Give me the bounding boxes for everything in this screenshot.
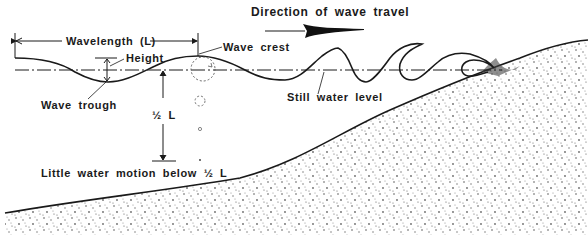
orbital-motion-circles [191, 57, 215, 161]
wave-trough-label: Wave trough [41, 100, 117, 111]
wave-trough-leader [88, 82, 106, 99]
wave-crest-label: Wave crest [223, 42, 290, 53]
half-l-label: ½ L [152, 110, 176, 121]
still-water-level-label: Still water level [287, 92, 383, 103]
wave-crest-leader [199, 47, 222, 54]
direction-label: Direction of wave travel [251, 6, 409, 18]
wave-diagram: Direction of wave travel Wavelength (L) … [0, 0, 588, 235]
direction-arrow [265, 24, 364, 38]
height-label: Height [126, 53, 164, 64]
beach-sand [5, 40, 588, 235]
wavelength-label: Wavelength (L) [66, 36, 156, 47]
little-motion-label: Little water motion below ½ L [41, 168, 227, 179]
